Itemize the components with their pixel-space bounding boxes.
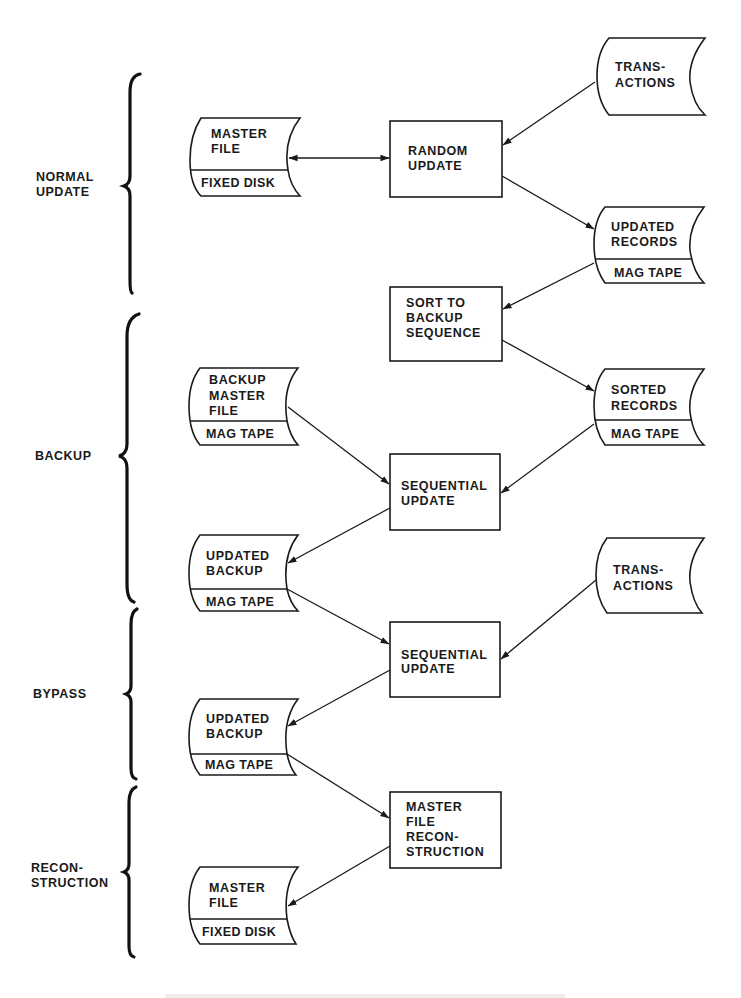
edge-updated-backup-reconstruction bbox=[287, 754, 389, 818]
node-label-line: ACTIONS bbox=[615, 76, 675, 90]
node-label-line: FILE bbox=[211, 142, 240, 156]
storage-medium-label: MAG TAPE bbox=[614, 266, 682, 280]
node-label-line: UPDATED bbox=[206, 712, 270, 726]
section-label-line: UPDATE bbox=[36, 185, 89, 199]
node-label-line: MASTER bbox=[209, 389, 265, 403]
section-label-line: NORMAL bbox=[36, 170, 94, 184]
node-label-line: RECORDS bbox=[611, 399, 678, 413]
node-label-line: UPDATE bbox=[401, 662, 455, 676]
node-master-file-fixed-disk-reconstructed[interactable]: MASTER FILE FIXED DISK bbox=[189, 867, 298, 944]
node-label-line: SEQUENTIAL bbox=[401, 479, 488, 493]
node-label-line: SEQUENCE bbox=[406, 326, 481, 340]
edge-sorted-records-seq-update bbox=[501, 424, 594, 493]
edge-sort-sorted-records bbox=[502, 340, 594, 391]
node-label-line: SORTED bbox=[611, 383, 667, 397]
storage-medium-label: FIXED DISK bbox=[202, 925, 276, 939]
storage-medium-label: FIXED DISK bbox=[201, 176, 275, 190]
edge-backup-master-seq-update bbox=[288, 407, 389, 484]
node-label-line: STRUCTION bbox=[406, 845, 484, 859]
node-label-line: ACTIONS bbox=[613, 579, 673, 593]
node-sort-to-backup-sequence[interactable]: SORT TO BACKUP SEQUENCE bbox=[390, 287, 502, 361]
node-sequential-update-backup[interactable]: SEQUENTIAL UPDATE bbox=[390, 454, 500, 530]
edge-random-update-updated-records bbox=[502, 176, 594, 229]
brace-reconstruction bbox=[124, 787, 136, 957]
node-label-line: SEQUENTIAL bbox=[401, 648, 488, 662]
storage-medium-label: MAG TAPE bbox=[206, 595, 274, 609]
node-label-line: UPDATE bbox=[401, 494, 455, 508]
node-label-line: MASTER bbox=[211, 127, 267, 141]
node-label-line: UPDATE bbox=[408, 159, 462, 173]
flowchart-canvas: NORMAL UPDATE BACKUP BYPASS RECON- STRUC… bbox=[0, 0, 741, 998]
section-label-line: BYPASS bbox=[33, 687, 86, 701]
section-bypass: BYPASS bbox=[33, 609, 137, 779]
storage-medium-label: MAG TAPE bbox=[205, 758, 273, 772]
node-sequential-update-bypass[interactable]: SEQUENTIAL UPDATE bbox=[390, 622, 500, 697]
node-label-line: TRANS- bbox=[613, 563, 664, 577]
node-label-line: BACKUP bbox=[406, 311, 463, 325]
caption-remnant bbox=[165, 994, 565, 998]
node-label-line: FILE bbox=[209, 404, 238, 418]
node-label-line: FILE bbox=[406, 815, 435, 829]
node-label-line: FILE bbox=[209, 896, 238, 910]
node-label-line: MASTER bbox=[209, 881, 265, 895]
brace-backup bbox=[119, 314, 139, 602]
node-transactions-top[interactable]: TRANS- ACTIONS bbox=[597, 38, 705, 115]
node-label-line: UPDATED bbox=[611, 220, 675, 234]
node-label-line: RECON- bbox=[406, 830, 459, 844]
edge-transactions-seq-update-2 bbox=[501, 580, 596, 659]
storage-medium-label: MAG TAPE bbox=[611, 427, 679, 441]
node-label-line: TRANS- bbox=[615, 60, 666, 74]
edge-seq-update-2-updated-backup bbox=[288, 670, 390, 726]
edge-transactions-random-update bbox=[503, 82, 595, 145]
node-label-line: BACKUP bbox=[209, 373, 266, 387]
node-random-update[interactable]: RANDOM UPDATE bbox=[390, 121, 502, 197]
edge-updated-records-sort bbox=[503, 263, 594, 309]
node-label-line: RECORDS bbox=[611, 235, 678, 249]
node-label-line: BACKUP bbox=[206, 727, 263, 741]
section-reconstruction: RECON- STRUCTION bbox=[31, 787, 136, 957]
node-updated-backup-2[interactable]: UPDATED BACKUP MAG TAPE bbox=[189, 699, 298, 775]
node-master-file-fixed-disk[interactable]: MASTER FILE FIXED DISK bbox=[190, 118, 300, 196]
node-label-line: RANDOM bbox=[408, 144, 468, 158]
edge-updated-backup-seq-update-2 bbox=[287, 589, 389, 644]
node-sorted-records[interactable]: SORTED RECORDS MAG TAPE bbox=[594, 369, 704, 445]
node-updated-backup-1[interactable]: UPDATED BACKUP MAG TAPE bbox=[189, 535, 298, 611]
node-label-line: MASTER bbox=[406, 800, 462, 814]
node-label-line: UPDATED bbox=[206, 549, 270, 563]
node-transactions-bypass[interactable]: TRANS- ACTIONS bbox=[596, 538, 704, 613]
edge-seq-update-updated-backup bbox=[288, 508, 390, 563]
brace-bypass bbox=[126, 609, 137, 779]
section-label-line: BACKUP bbox=[35, 449, 91, 463]
node-label-line: SORT TO bbox=[406, 296, 466, 310]
edge-reconstruction-master-file bbox=[288, 846, 390, 906]
node-backup-master-file[interactable]: BACKUP MASTER FILE MAG TAPE bbox=[189, 368, 298, 445]
section-label-line: RECON- bbox=[31, 861, 83, 875]
node-updated-records[interactable]: UPDATED RECORDS MAG TAPE bbox=[594, 207, 704, 283]
section-label-line: STRUCTION bbox=[31, 876, 108, 890]
section-backup: BACKUP bbox=[35, 314, 139, 602]
brace-normal-update bbox=[124, 74, 140, 293]
node-master-file-reconstruction[interactable]: MASTER FILE RECON- STRUCTION bbox=[390, 792, 501, 868]
section-normal-update: NORMAL UPDATE bbox=[36, 74, 140, 293]
storage-medium-label: MAG TAPE bbox=[206, 427, 274, 441]
node-label-line: BACKUP bbox=[206, 564, 263, 578]
